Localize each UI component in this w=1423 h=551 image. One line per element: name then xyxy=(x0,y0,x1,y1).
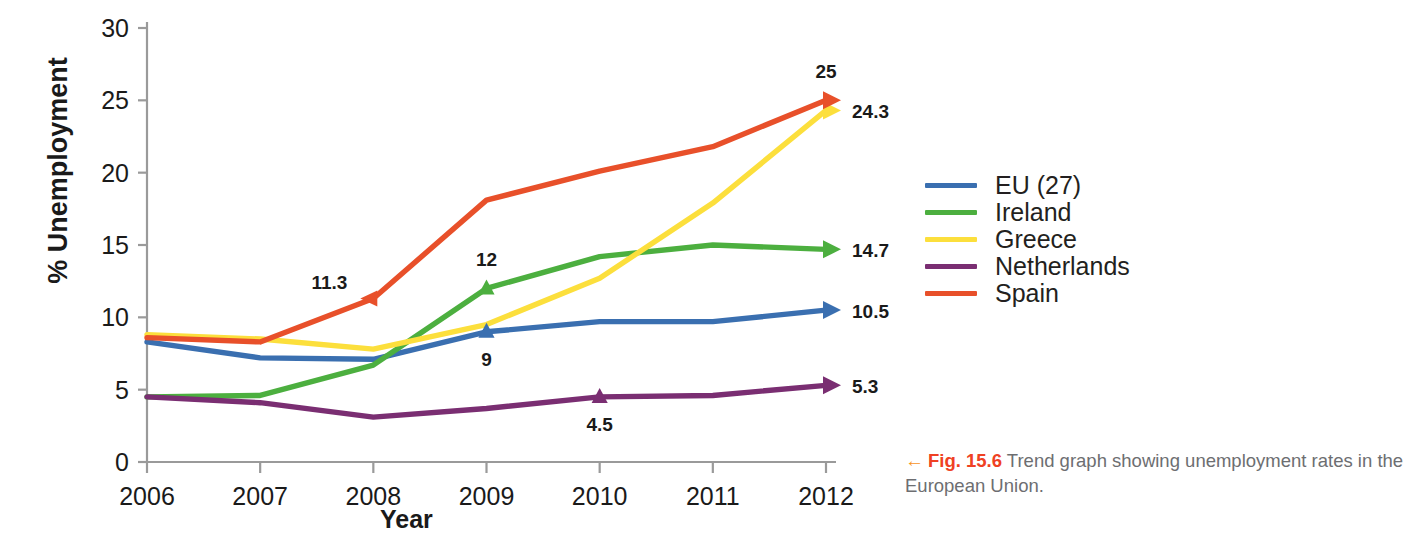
series-point-label: 11.3 xyxy=(311,272,347,293)
series-end-marker xyxy=(823,240,841,258)
series-end-label: 10.5 xyxy=(852,301,889,322)
legend-color-swatch xyxy=(925,237,977,242)
legend-color-swatch xyxy=(925,183,977,188)
legend-item: Netherlands xyxy=(925,253,1130,280)
series-point-label: 12 xyxy=(476,249,497,270)
legend-color-swatch xyxy=(925,210,977,215)
series-end-label: 14.7 xyxy=(852,240,889,261)
chart-plot-area: 0510152025302006200720082009201020112012… xyxy=(0,0,900,551)
y-axis-tick-label: 10 xyxy=(101,303,129,331)
y-axis-tick-label: 20 xyxy=(101,159,129,187)
y-axis-tick-label: 0 xyxy=(115,448,129,476)
figure-number: Fig. 15.6 xyxy=(928,450,1002,471)
x-axis-title: Year xyxy=(380,505,433,534)
legend-item: Ireland xyxy=(925,199,1130,226)
x-axis-tick-label: 2006 xyxy=(119,482,175,510)
series-end-marker xyxy=(823,301,841,319)
legend-label: EU (27) xyxy=(995,172,1081,199)
x-axis-tick-label: 2011 xyxy=(686,482,740,510)
legend-color-swatch xyxy=(925,291,977,296)
left-arrow-icon: ← xyxy=(905,450,924,471)
legend-label: Greece xyxy=(995,226,1077,253)
series-line xyxy=(147,385,826,417)
y-axis-tick-label: 5 xyxy=(115,376,129,404)
series-line xyxy=(147,100,826,342)
series-line xyxy=(147,110,826,349)
x-axis-tick-label: 2007 xyxy=(232,482,288,510)
legend-label: Netherlands xyxy=(995,253,1130,280)
y-axis-tick-label: 30 xyxy=(101,14,129,42)
series-end-label: 24.3 xyxy=(852,101,889,122)
y-axis-tick-label: 25 xyxy=(101,86,129,114)
legend-color-swatch xyxy=(925,264,977,269)
legend-item: Greece xyxy=(925,226,1130,253)
series-point-label: 25 xyxy=(815,61,837,82)
trend-line-chart: 0510152025302006200720082009201020112012… xyxy=(0,0,900,551)
series-end-marker xyxy=(823,376,841,394)
figure-root: 0510152025302006200720082009201020112012… xyxy=(0,0,1423,551)
x-axis-tick-label: 2012 xyxy=(798,482,854,510)
series-end-label: 5.3 xyxy=(852,376,878,397)
series-point-label: 9 xyxy=(481,349,492,370)
legend-label: Spain xyxy=(995,280,1059,307)
legend-item: EU (27) xyxy=(925,172,1130,199)
x-axis-tick-label: 2009 xyxy=(459,482,515,510)
legend-item: Spain xyxy=(925,280,1130,307)
chart-legend: EU (27)IrelandGreeceNetherlandsSpain xyxy=(925,172,1130,307)
series-point-label: 4.5 xyxy=(586,414,613,435)
x-axis-tick-label: 2010 xyxy=(572,482,628,510)
y-axis-tick-label: 15 xyxy=(101,231,129,259)
y-axis-title: % Unemployment xyxy=(43,41,74,301)
figure-caption: ←Fig. 15.6 Trend graph showing unemploym… xyxy=(905,448,1423,498)
legend-label: Ireland xyxy=(995,199,1071,226)
